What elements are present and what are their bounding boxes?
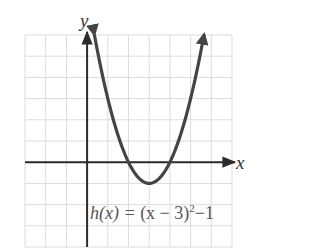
function-base: (x − 3) xyxy=(140,203,189,223)
function-lhs: h(x) = xyxy=(90,203,136,223)
x-axis-label: x xyxy=(236,153,244,172)
function-label: h(x) = (x − 3)2−1 xyxy=(90,203,214,222)
function-tail: −1 xyxy=(195,203,214,223)
y-axis-label: y xyxy=(80,11,88,30)
